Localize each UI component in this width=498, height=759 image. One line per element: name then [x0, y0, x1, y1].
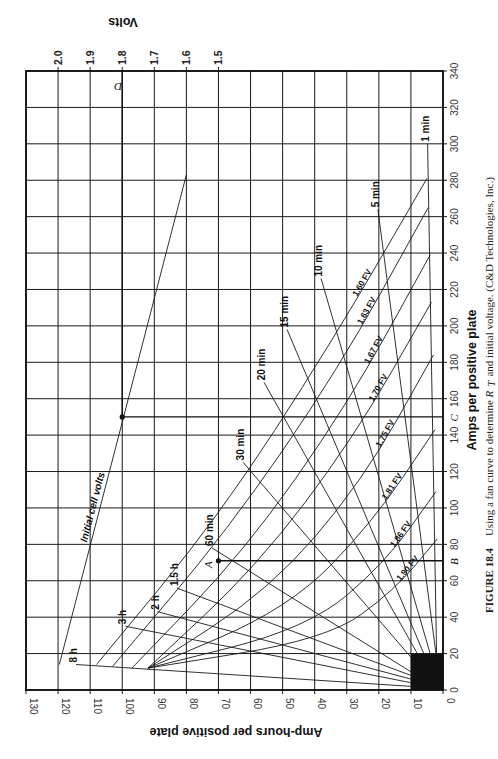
amphours-tick-label: 130 — [28, 698, 39, 715]
amps-tick-label: 0 — [449, 687, 460, 693]
time-line-label: 3 h — [117, 610, 128, 624]
final-voltage-label: 1.63 FV — [355, 295, 378, 326]
amphours-tick-label: 100 — [124, 698, 135, 715]
figure-caption: FIGURE 18.4 Using a fan curve to determi… — [479, 177, 498, 613]
volts-tick-label: 1.7 — [148, 50, 160, 65]
caption-text-1: Using a fan curve to determine — [483, 397, 495, 536]
point-c-label: C — [448, 414, 460, 422]
time-line-label: 1.5 h — [169, 563, 180, 586]
time-line-label: 8 h — [68, 648, 79, 662]
final-voltage-curve — [148, 355, 433, 668]
axis-ticks: 0102030405060708090100110120130020406080… — [26, 50, 460, 715]
time-line-label: 10 min — [313, 245, 324, 277]
volts-tick-label: 1.9 — [84, 50, 96, 65]
amps-tick-label: 240 — [449, 244, 460, 261]
point-b-label: B — [448, 558, 460, 565]
amphours-tick-label: 50 — [284, 698, 295, 710]
time-line-label: 20 min — [256, 349, 267, 381]
amphours-tick-label: 120 — [60, 698, 71, 715]
shaded-region — [411, 654, 443, 690]
amps-tick-label: 300 — [449, 135, 460, 152]
amphours-tick-label: 80 — [188, 698, 199, 710]
volts-axis-title: Volts — [108, 15, 138, 29]
time-line — [158, 612, 411, 679]
time-line — [125, 626, 410, 682]
amps-tick-label: 60 — [449, 575, 460, 587]
time-line-label: 5 min — [370, 181, 381, 207]
point-d-label: D — [114, 81, 123, 93]
final-voltage-label: 1.67 FV — [362, 334, 385, 365]
volts-tick-label: 1.8 — [116, 50, 128, 65]
point-a-label: A — [202, 561, 214, 569]
amps-tick-label: 80 — [449, 538, 460, 550]
time-line-label: 60 min — [204, 514, 215, 546]
time-line-label: 1 min — [420, 116, 431, 142]
caption-subscript: T — [485, 380, 497, 387]
amphours-tick-label: 40 — [316, 698, 327, 710]
amps-tick-label: 120 — [449, 463, 460, 480]
amps-tick-label: 340 — [449, 62, 460, 79]
time-line-label: 15 min — [279, 296, 290, 328]
final-voltage-label: 1.90 FV — [394, 553, 421, 583]
amps-tick-label: 160 — [449, 390, 460, 407]
initial-cell-volts-label: Initial cell volts — [78, 471, 107, 544]
fan-curve-chart: 1 min5 min10 min15 min20 min30 min60 min… — [0, 0, 498, 759]
amps-tick-label: 100 — [449, 499, 460, 516]
time-line — [177, 588, 411, 675]
amphours-tick-label: 110 — [92, 698, 103, 714]
caption-symbol: R — [483, 390, 495, 398]
amps-tick-label: 320 — [449, 99, 460, 116]
amphours-axis-title: Amp-hours per positive plate — [149, 725, 322, 739]
amps-tick-label: 180 — [449, 354, 460, 371]
curve-labels: 1 min5 min10 min15 min20 min30 min60 min… — [68, 81, 460, 663]
amphours-tick-label: 90 — [156, 698, 167, 710]
time-line — [76, 665, 411, 687]
amps-tick-label: 140 — [449, 426, 460, 443]
amps-tick-label: 280 — [449, 171, 460, 188]
time-line-label: 30 min — [235, 429, 246, 461]
volts-tick-label: 2.0 — [52, 50, 64, 65]
final-voltage-curve — [97, 178, 427, 664]
time-line-label: 2 h — [150, 595, 161, 609]
point-a-marker — [216, 558, 221, 563]
amphours-tick-label: 0 — [445, 698, 456, 704]
amps-tick-label: 40 — [449, 611, 460, 623]
amphours-tick-label: 60 — [252, 698, 263, 710]
amphours-tick-label: 30 — [348, 698, 359, 710]
final-voltage-label: 1.81 FV — [379, 471, 404, 502]
final-voltage-curve — [148, 539, 437, 668]
curves — [59, 144, 437, 687]
figure-number: FIGURE 18.4 — [483, 548, 495, 613]
amphours-tick-label: 70 — [220, 698, 231, 710]
volts-tick-label: 1.5 — [212, 50, 224, 65]
amphours-tick-label: 20 — [380, 698, 391, 710]
amps-axis-title: Amps per positive plate — [465, 309, 479, 450]
volts-tick-label: 1.6 — [180, 50, 192, 65]
caption-text-2: and initial voltage. (C&D Technologies, … — [483, 177, 496, 377]
amps-tick-label: 200 — [449, 317, 460, 334]
amps-tick-label: 20 — [449, 648, 460, 660]
amps-tick-label: 260 — [449, 208, 460, 225]
amps-tick-label: 220 — [449, 281, 460, 298]
amphours-tick-label: 10 — [412, 698, 423, 710]
shaded-origin-block — [411, 654, 443, 690]
point-c-intersection-marker — [120, 414, 125, 419]
final-voltage-label: 1.60 FV — [350, 267, 374, 298]
final-voltage-label: 1.75 FV — [373, 417, 396, 448]
